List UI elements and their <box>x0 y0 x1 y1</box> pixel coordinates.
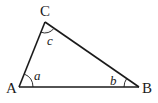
angle-arc-a <box>24 74 33 87</box>
angle-label-c: c <box>47 33 53 48</box>
triangle-diagram: A B C a b c <box>0 0 158 103</box>
angle-label-b: b <box>110 73 117 88</box>
angle-label-a: a <box>34 68 41 83</box>
vertex-label-b: B <box>142 80 152 96</box>
edge-ca <box>19 22 45 87</box>
vertex-label-c: C <box>40 3 50 19</box>
vertex-label-a: A <box>6 80 17 96</box>
angle-arc-b <box>124 79 127 88</box>
edge-bc <box>45 22 139 87</box>
